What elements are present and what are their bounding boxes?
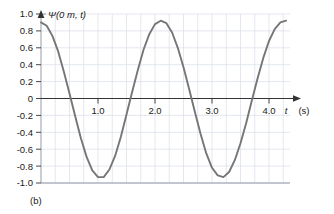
- y-tick-label: 1.0: [20, 8, 33, 19]
- y-tick-label: 0: [28, 93, 33, 104]
- y-axis-label: Ψ(0 m, t): [48, 9, 86, 20]
- y-tick-label: 0.2: [20, 76, 33, 87]
- x-tick-label: 1.0: [91, 105, 104, 116]
- panel-label: (b): [30, 195, 42, 206]
- y-tick-label: 0.8: [20, 25, 33, 36]
- psi-vs-time-chart: 1.0 0.8 0.6 0.4 0.2 0 -0.2 -0.4 -0.6 -0.…: [0, 0, 334, 214]
- x-axis-symbol: t: [285, 105, 288, 116]
- y-tick-label: 0.4: [20, 59, 33, 70]
- y-tick-label: 0.6: [20, 42, 33, 53]
- y-tick-label: -0.2: [17, 110, 33, 121]
- x-tick-label: 2.0: [148, 105, 161, 116]
- y-tick-label: -0.4: [17, 127, 33, 138]
- x-axis-unit: (s): [298, 105, 309, 116]
- x-tick-label: 4.0: [262, 105, 275, 116]
- y-tick-label: -1.0: [17, 177, 33, 188]
- y-tick-label: -0.6: [17, 144, 33, 155]
- x-tick-label: 3.0: [205, 105, 218, 116]
- y-tick-label: -0.8: [17, 161, 33, 172]
- figure-panel-b: 1.0 0.8 0.6 0.4 0.2 0 -0.2 -0.4 -0.6 -0.…: [0, 0, 334, 214]
